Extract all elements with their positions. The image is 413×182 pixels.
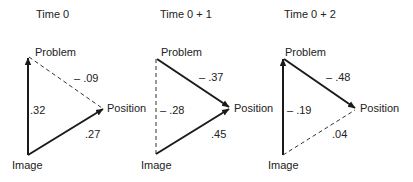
node-image: Image [12,159,43,171]
panel-time-0-plus-1: Time 0 + 1 Problem Position Image – .28 … [141,8,273,171]
node-image: Image [268,159,299,171]
node-position: Position [360,102,399,114]
node-problem: Problem [161,46,202,58]
weight-problem-position: – .37 [199,71,223,83]
weight-image-position: .27 [85,128,100,140]
panel-title: Time 0 + 2 [284,8,336,20]
weight-image-position: .04 [332,128,347,140]
panel-time-0-plus-2: Time 0 + 2 Problem Position Image – .19 … [268,8,399,171]
node-image: Image [141,159,172,171]
panel-title: Time 0 [36,8,69,20]
path-diagram: Time 0 Problem Position Image .32 – .09 … [0,0,413,182]
weight-image-problem: – .28 [160,104,184,116]
edge-problem-position [284,59,355,108]
weight-problem-position: – .09 [74,72,98,84]
node-position: Position [234,102,273,114]
panel-title: Time 0 + 1 [160,8,212,20]
node-problem: Problem [35,46,76,58]
weight-image-problem: .32 [30,104,45,116]
node-problem: Problem [285,46,326,58]
weight-image-position: .45 [211,128,226,140]
panel-time-0: Time 0 Problem Position Image .32 – .09 … [12,8,146,171]
edge-problem-position [157,59,229,107]
node-position: Position [107,102,146,114]
weight-problem-position: – .48 [326,71,350,83]
weight-image-problem: – .19 [287,104,311,116]
